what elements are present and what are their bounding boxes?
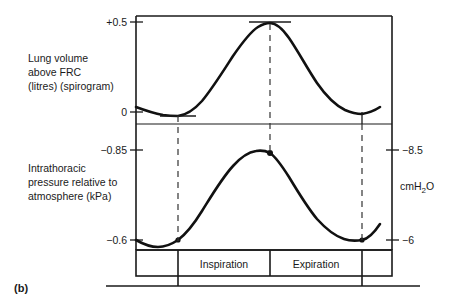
phase-label-expiration: Expiration (293, 258, 340, 270)
plot-frame (136, 16, 392, 250)
phase-bar: Inspiration Expiration (106, 250, 420, 286)
figure-canvas: Inspiration Expiration +0.5 0 −0.85 −0.6… (0, 0, 456, 296)
unit-suffix: O (426, 180, 434, 192)
upper-axis-label-line1: Lung volume (28, 52, 88, 64)
lower-axis-label: Intrathoracic pressure relative to atmos… (28, 162, 117, 202)
tick-label-zero: 0 (121, 106, 127, 118)
vertical-guides (178, 24, 362, 241)
lower-axis-label-line2: pressure relative to (28, 176, 117, 188)
unit-label-group: cmH2O (400, 180, 434, 195)
tick-label-minus-85: −8.5 (402, 144, 423, 156)
respiratory-cycle-figure: Inspiration Expiration +0.5 0 −0.85 −0.6… (0, 0, 456, 296)
tick-label-plus-05: +0.5 (106, 16, 127, 28)
upper-axis-label: Lung volume above FRC (litres) (spirogra… (28, 52, 114, 92)
phase-label-inspiration: Inspiration (200, 258, 249, 270)
pressure-panel (130, 150, 399, 247)
tick-label-minus-6: −6 (402, 234, 414, 246)
right-unit-label: cmH2O (400, 180, 434, 195)
lung-volume-curve (136, 23, 380, 116)
tick-labels: +0.5 0 −0.85 −0.6 −8.5 −6 (100, 16, 422, 246)
lower-axis-label-line1: Intrathoracic (28, 162, 86, 174)
tick-label-minus-06: −0.6 (106, 234, 127, 246)
phase-bar-frame (136, 250, 392, 276)
upper-axis-label-line3: (litres) (spirogram) (28, 80, 114, 92)
unit-prefix: cmH (400, 180, 422, 192)
upper-axis-label-line2: above FRC (28, 66, 82, 78)
lower-axis-label-line3: atmosphere (kPa) (28, 190, 111, 202)
spirogram-panel (130, 22, 380, 124)
tick-label-minus-085: −0.85 (100, 144, 127, 156)
figure-caption: (b) (14, 282, 28, 294)
intrathoracic-pressure-curve (136, 151, 380, 247)
